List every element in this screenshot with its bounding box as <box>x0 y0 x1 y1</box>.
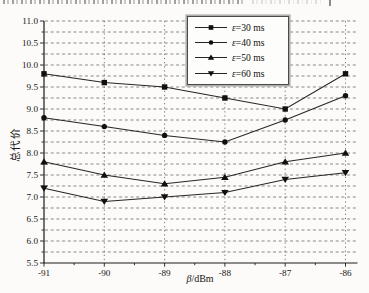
legend-item-3: ε=60 ms <box>194 66 288 81</box>
y-tick-label: 10.5 <box>22 38 38 48</box>
square-marker <box>41 71 46 76</box>
square-marker <box>102 80 107 85</box>
square-marker <box>343 71 348 76</box>
triangle-up-marker <box>342 150 350 156</box>
triangle-up-marker <box>40 158 48 164</box>
legend-item-1: ε=40 ms <box>194 35 288 50</box>
x-tick-label: -91 <box>38 268 51 278</box>
x-tick-label: -86 <box>339 268 352 278</box>
circle-marker <box>162 133 167 138</box>
x-axis-label: β/dBm <box>165 273 235 284</box>
y-tick-label: 10.0 <box>22 60 38 70</box>
y-tick-label: 5.5 <box>27 258 39 268</box>
square-marker <box>162 84 167 89</box>
circle-marker <box>343 93 348 98</box>
legend-label: ε=50 ms <box>232 52 264 63</box>
series-line-2 <box>44 153 346 184</box>
y-tick-label: 7.0 <box>27 192 39 202</box>
series-line-1 <box>44 96 346 142</box>
triangle-down-marker <box>101 199 109 205</box>
legend-sample-square <box>194 22 228 33</box>
square-marker <box>209 25 214 30</box>
y-tick-label: 7.5 <box>27 170 39 180</box>
legend-sample-triangle-up <box>194 52 228 63</box>
circle-marker <box>222 139 227 144</box>
legend-item-2: ε=50 ms <box>194 50 288 65</box>
square-marker <box>283 106 288 111</box>
legend-item-0: ε=30 ms <box>194 20 288 35</box>
y-tick-label: 8.0 <box>27 148 39 158</box>
legend-sample-triangle-down <box>194 68 228 79</box>
chart-plot-area: 5.56.06.57.07.58.08.59.09.510.010.511.0-… <box>0 0 369 293</box>
x-tick-label: -90 <box>98 268 111 278</box>
square-marker <box>222 95 227 100</box>
legend-label: ε=30 ms <box>232 22 264 33</box>
y-tick-label: 8.5 <box>27 126 39 136</box>
y-tick-label: 9.0 <box>27 104 39 114</box>
x-axis-label-unit: /dBm <box>191 273 213 284</box>
circle-marker <box>283 117 288 122</box>
legend: ε=30 msε=40 msε=50 msε=60 ms <box>187 16 289 85</box>
x-tick-label: -87 <box>279 268 292 278</box>
legend-sample-circle <box>194 37 228 48</box>
circle-marker <box>209 40 214 45</box>
y-tick-label: 6.0 <box>27 236 39 246</box>
legend-label: ε=60 ms <box>232 68 264 79</box>
circle-marker <box>41 115 46 120</box>
scanned-chart-figure: 5.56.06.57.07.58.08.59.09.510.010.511.0-… <box>0 0 369 293</box>
y-tick-label: 6.5 <box>27 214 39 224</box>
y-tick-label: 11.0 <box>22 16 38 26</box>
y-axis-label: 总代价 <box>7 128 22 163</box>
circle-marker <box>102 124 107 129</box>
y-tick-label: 9.5 <box>27 82 39 92</box>
legend-label: ε=40 ms <box>232 37 264 48</box>
